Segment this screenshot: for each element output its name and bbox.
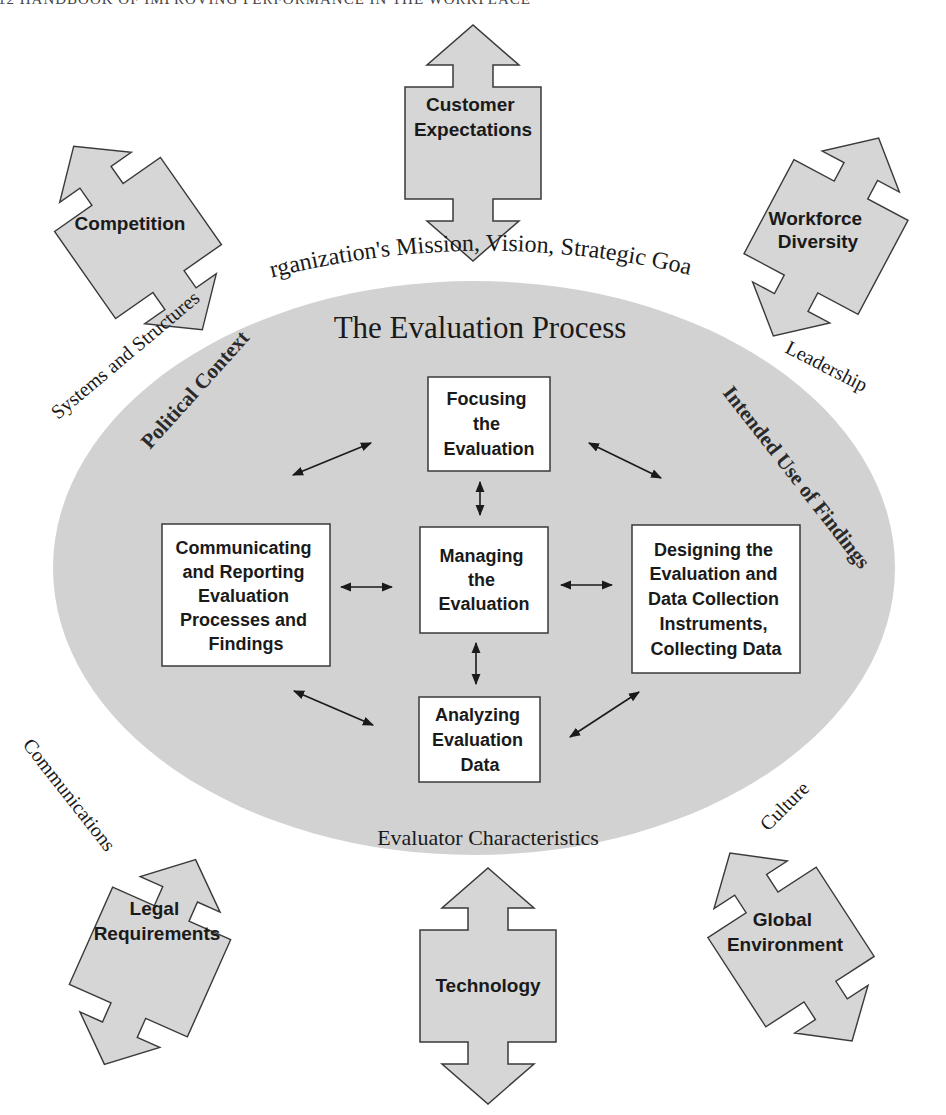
communicating-line2: and Reporting	[182, 562, 304, 582]
customer-expectations-line2: Expectations	[414, 119, 532, 140]
managing-line3: Evaluation	[438, 594, 529, 614]
evaluation-process-diagram: Customer Expectations Competition Workfo…	[0, 0, 946, 1115]
communicating-line4: Processes and	[180, 610, 307, 630]
focusing-line3: Evaluation	[443, 439, 534, 459]
customer-expectations-line1: Customer	[426, 94, 515, 115]
technology-label: Technology	[435, 975, 541, 996]
managing-box: Managing the Evaluation	[420, 527, 548, 633]
communicating-box: Communicating and Reporting Evaluation P…	[162, 524, 330, 666]
technology-arrow: Technology	[420, 868, 556, 1104]
analyzing-box: Analyzing Evaluation Data	[419, 697, 540, 782]
global-environment-line2: Environment	[727, 934, 844, 955]
focusing-box: Focusing the Evaluation	[428, 377, 550, 471]
global-environment-line1: Global	[753, 909, 812, 930]
focusing-line2: the	[473, 414, 500, 434]
evaluator-characteristics-label: Evaluator Characteristics	[377, 825, 599, 850]
analyzing-line2: Evaluation	[432, 730, 523, 750]
culture-label: Culture	[755, 777, 813, 835]
designing-box: Designing the Evaluation and Data Collec…	[632, 525, 800, 673]
managing-line2: the	[468, 570, 495, 590]
designing-line2: Evaluation and	[649, 564, 777, 584]
competition-label: Competition	[75, 213, 186, 234]
analyzing-line1: Analyzing	[435, 705, 520, 725]
svg-text:Designing the Evaluation: Designing the Evaluation and Data Collec…	[648, 540, 784, 659]
workforce-diversity-line1: Workforce	[769, 208, 863, 229]
communicating-line3: Evaluation	[198, 586, 289, 606]
customer-expectations-arrow: Customer Expectations	[405, 25, 541, 261]
analyzing-line3: Data	[460, 755, 500, 775]
legal-requirements-arrow	[45, 833, 254, 1090]
communications-label: Communications	[19, 734, 121, 855]
designing-line3: Data Collection	[648, 589, 779, 609]
designing-line4: Instruments,	[659, 614, 767, 634]
designing-line5: Collecting Data	[650, 639, 782, 659]
legal-requirements-line1: Legal	[130, 898, 180, 919]
managing-line1: Managing	[439, 546, 523, 566]
focusing-line1: Focusing	[446, 389, 526, 409]
designing-line1: Designing the	[654, 540, 773, 560]
evaluation-process-title: The Evaluation Process	[334, 310, 627, 345]
communicating-line5: Findings	[209, 634, 284, 654]
workforce-diversity-line2: Diversity	[778, 231, 859, 252]
legal-requirements-line2: Requirements	[94, 923, 221, 944]
communicating-line1: Communicating	[175, 538, 311, 558]
